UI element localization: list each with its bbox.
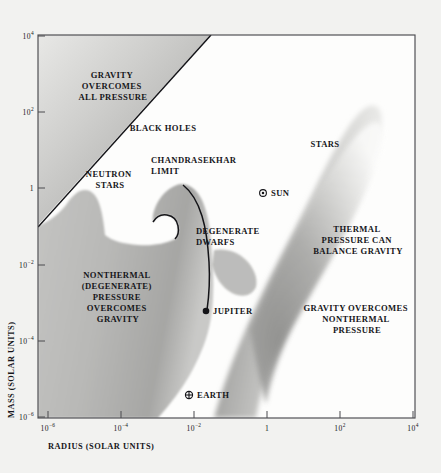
filled-dot-icon — [203, 308, 210, 315]
x-axis-title: RADIUS (SOLAR UNITS) — [48, 442, 154, 451]
y-tick-label-2: 1 — [30, 184, 34, 193]
region-label-stars: STARS — [310, 139, 339, 149]
y-axis-title: MASS (SOLAR UNITS) — [7, 322, 16, 419]
sun-symbol-center-icon — [262, 192, 265, 195]
datapoint-sun: SUN — [260, 188, 290, 198]
datapoint-label-sun: SUN — [271, 188, 290, 198]
datapoint-label-jupiter: JUPITER — [213, 306, 253, 316]
region-label-black-holes: BLACK HOLES — [130, 123, 197, 133]
x-tick-label-3: 1 — [265, 424, 269, 433]
datapoint-label-earth: EARTH — [197, 390, 229, 400]
mass-radius-phase-diagram: 10−6 10−4 10−2 1 102 104 104 102 1 10−2 … — [0, 0, 441, 473]
